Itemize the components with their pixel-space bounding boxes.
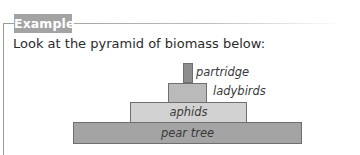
label-pear-tree: pear tree [161,126,214,140]
label-ladybirds: ladybirds [213,84,266,98]
pyramid-level-ladybirds [168,83,207,103]
label-aphids: aphids [169,105,207,119]
example-badge: Example [14,14,72,33]
pyramid-level-partridge [183,63,193,83]
pyramid-level-aphids: aphids [130,102,247,123]
label-partridge: partridge [196,65,249,79]
intro-text: Look at the pyramid of biomass below: [13,36,265,52]
pyramid-level-pear-tree: pear tree [73,122,302,144]
example-frame-left-border [3,23,4,155]
